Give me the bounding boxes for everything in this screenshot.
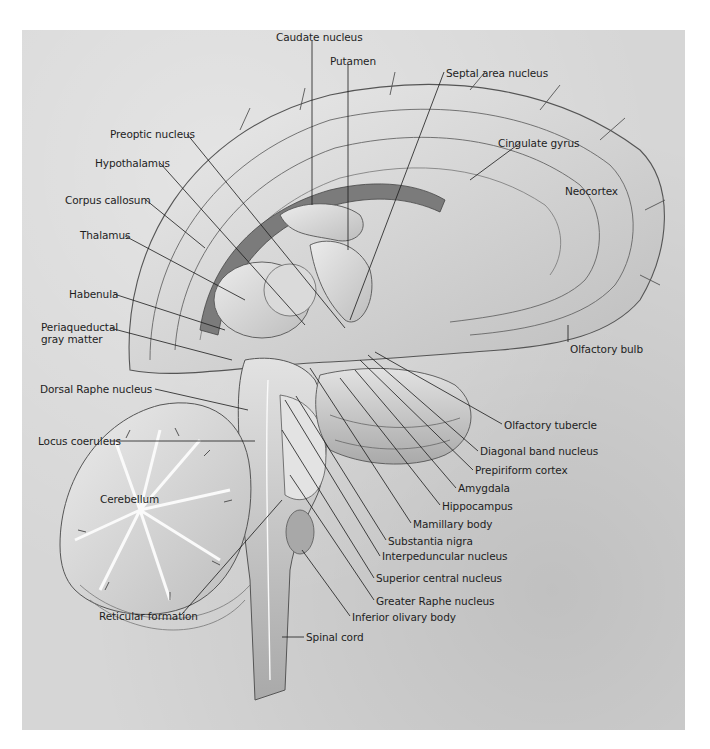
label-reticular-formation: Reticular formation — [99, 610, 198, 622]
label-corpus-callosum: Corpus callosum — [65, 194, 151, 206]
label-amygdala: Amygdala — [458, 482, 510, 494]
label-habenula: Habenula — [69, 288, 118, 300]
label-olfactory-tubercle: Olfactory tubercle — [504, 419, 597, 431]
label-septal-area-nucleus: Septal area nucleus — [446, 67, 548, 79]
label-superior-central-nucleus: Superior central nucleus — [376, 572, 502, 584]
label-greater-raphe-nucleus: Greater Raphe nucleus — [376, 595, 494, 607]
label-interpeduncular-nucleus: Interpeduncular nucleus — [382, 550, 507, 562]
label-hippocampus: Hippocampus — [442, 500, 513, 512]
label-neocortex: Neocortex — [565, 185, 618, 197]
label-hypothalamus: Hypothalamus — [95, 157, 170, 169]
label-spinal-cord: Spinal cord — [306, 631, 364, 643]
label-substantia-nigra: Substantia nigra — [388, 535, 473, 547]
brainstem-shape — [238, 358, 326, 700]
label-periaqueductal-gray-matter: Periaqueductal gray matter — [41, 321, 118, 345]
label-cingulate-gyrus: Cingulate gyrus — [498, 137, 579, 149]
label-putamen: Putamen — [330, 55, 376, 67]
olivary-shape — [286, 510, 314, 554]
label-locus-coeruleus: Locus coeruleus — [38, 435, 121, 447]
temporal-lobe-shape — [316, 368, 471, 464]
label-cerebellum: Cerebellum — [100, 493, 159, 505]
label-diagonal-band-nucleus: Diagonal band nucleus — [480, 445, 598, 457]
label-prepiriform-cortex: Prepiriform cortex — [475, 464, 568, 476]
label-olfactory-bulb: Olfactory bulb — [570, 343, 643, 355]
label-thalamus: Thalamus — [80, 229, 130, 241]
label-caudate-nucleus: Caudate nucleus — [276, 31, 363, 43]
label-inferior-olivary-body: Inferior olivary body — [352, 611, 456, 623]
label-dorsal-raphe-nucleus: Dorsal Raphe nucleus — [40, 383, 152, 395]
label-preoptic-nucleus: Preoptic nucleus — [110, 128, 195, 140]
label-mamillary-body: Mamillary body — [413, 518, 492, 530]
